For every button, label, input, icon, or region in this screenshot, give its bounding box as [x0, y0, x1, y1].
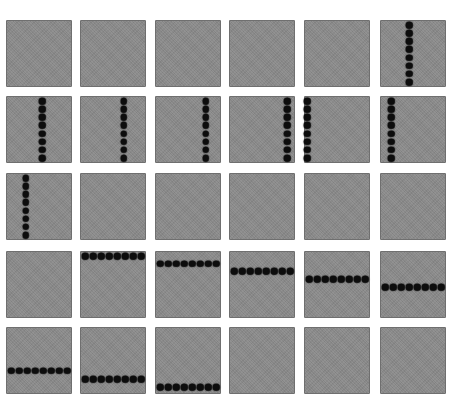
grid-tile-r1-c1 [6, 20, 72, 87]
dot-marker [322, 276, 329, 283]
dot-marker [82, 376, 89, 383]
dot-marker [284, 147, 291, 154]
horizontal-dot-line [80, 251, 146, 318]
dot-marker [304, 130, 311, 137]
dot-marker [398, 284, 405, 291]
dot-marker [406, 46, 413, 53]
grid-tile-r4-c3 [155, 251, 221, 318]
dot-marker [304, 114, 311, 121]
dot-marker [414, 284, 421, 291]
dot-marker [130, 376, 137, 383]
dot-marker [213, 260, 220, 267]
dot-marker [120, 155, 127, 162]
dot-marker [197, 384, 204, 391]
dot-marker [157, 260, 164, 267]
horizontal-dot-line [80, 327, 146, 394]
dot-marker [39, 147, 46, 154]
grid-tile-r2-c1 [6, 96, 72, 163]
grid-tile-r4-c2 [80, 251, 146, 318]
grid-tile-r5-c1 [6, 327, 72, 394]
dot-marker [114, 253, 121, 260]
image-tile-grid [0, 0, 460, 403]
dot-marker [203, 138, 210, 145]
dot-marker [306, 276, 313, 283]
grid-tile-r4-c5 [304, 251, 370, 318]
dot-marker [279, 268, 286, 275]
dot-marker [56, 367, 63, 374]
dot-marker [314, 276, 321, 283]
dot-marker [304, 122, 311, 129]
grid-tile-r3-c4 [229, 173, 295, 240]
dot-marker [23, 207, 30, 214]
grid-tile-r3-c6 [380, 173, 446, 240]
dot-marker [354, 276, 361, 283]
dot-marker [388, 147, 395, 154]
dot-marker [203, 122, 210, 129]
dot-marker [138, 376, 145, 383]
dot-marker [346, 276, 353, 283]
dot-marker [422, 284, 429, 291]
dot-marker [16, 367, 23, 374]
dot-marker [388, 122, 395, 129]
grid-tile-r1-c4 [229, 20, 295, 87]
dot-marker [382, 284, 389, 291]
vertical-dot-line [155, 96, 221, 163]
dot-marker [203, 130, 210, 137]
grid-tile-r5-c3 [155, 327, 221, 394]
dot-marker [388, 138, 395, 145]
dot-marker [165, 384, 172, 391]
dot-marker [203, 106, 210, 113]
dot-marker [263, 268, 270, 275]
dot-marker [388, 98, 395, 105]
dot-marker [203, 114, 210, 121]
grid-tile-r1-c5 [304, 20, 370, 87]
dot-marker [203, 155, 210, 162]
dot-marker [284, 98, 291, 105]
dot-marker [48, 367, 55, 374]
dot-marker [98, 253, 105, 260]
dot-marker [330, 276, 337, 283]
vertical-dot-line [380, 96, 446, 163]
dot-marker [284, 130, 291, 137]
dot-marker [255, 268, 262, 275]
dot-marker [406, 30, 413, 37]
horizontal-dot-line [380, 251, 446, 318]
dot-marker [406, 62, 413, 69]
dot-marker [406, 284, 413, 291]
horizontal-dot-line [304, 251, 370, 318]
grid-tile-r2-c2 [80, 96, 146, 163]
dot-marker [23, 224, 30, 231]
dot-marker [284, 114, 291, 121]
dot-marker [23, 191, 30, 198]
dot-marker [39, 106, 46, 113]
grid-tile-r1-c6 [380, 20, 446, 87]
dot-marker [287, 268, 294, 275]
dot-marker [120, 130, 127, 137]
dot-marker [120, 114, 127, 121]
dot-marker [39, 130, 46, 137]
dot-marker [39, 98, 46, 105]
dot-marker [189, 384, 196, 391]
grid-tile-r1-c3 [155, 20, 221, 87]
dot-marker [203, 98, 210, 105]
dot-marker [122, 253, 129, 260]
dot-marker [120, 138, 127, 145]
vertical-dot-line [6, 96, 72, 163]
dot-marker [338, 276, 345, 283]
dot-marker [406, 79, 413, 86]
grid-tile-r3-c3 [155, 173, 221, 240]
dot-marker [304, 147, 311, 154]
dot-marker [120, 106, 127, 113]
grid-tile-r3-c1 [6, 173, 72, 240]
horizontal-dot-line [155, 327, 221, 394]
vertical-dot-line [80, 96, 146, 163]
dot-marker [32, 367, 39, 374]
dot-marker [23, 175, 30, 182]
dot-marker [23, 232, 30, 239]
dot-marker [122, 376, 129, 383]
dot-marker [406, 54, 413, 61]
grid-tile-r4-c4 [229, 251, 295, 318]
vertical-dot-line [229, 96, 295, 163]
dot-marker [23, 183, 30, 190]
dot-marker [430, 284, 437, 291]
